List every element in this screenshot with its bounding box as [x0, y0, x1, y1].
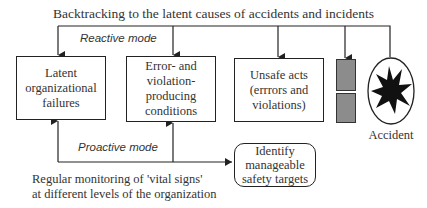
error-conditions-box: Error- and violation- producing conditio… — [126, 56, 216, 122]
monitoring-caption: Regular monitoring of 'vital signs' at d… — [32, 172, 217, 202]
latent-failures-label: Latent organizational failures — [25, 66, 96, 111]
accident-label: Accident — [368, 128, 414, 143]
safety-targets-box: Identify manageable safety targets — [234, 143, 316, 187]
unsafe-acts-box: Unsafe acts (errrors and violations) — [234, 58, 324, 122]
proactive-mode-label: Proactive mode — [78, 141, 158, 153]
defence-block-1 — [336, 59, 356, 91]
error-conditions-label: Error- and violation- producing conditio… — [145, 59, 197, 119]
latent-failures-box: Latent organizational failures — [16, 56, 106, 120]
unsafe-acts-label: Unsafe acts (errrors and violations) — [250, 68, 309, 113]
defence-block-2 — [336, 93, 356, 123]
safety-targets-label: Identify manageable safety targets — [242, 144, 308, 186]
reactive-mode-label: Reactive mode — [80, 32, 157, 44]
diagram-title: Backtracking to the latent causes of acc… — [0, 6, 427, 22]
